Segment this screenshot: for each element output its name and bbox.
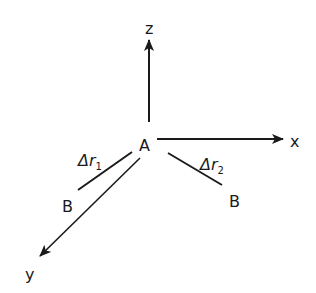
y-axis-arrow bbox=[40, 158, 140, 256]
x-axis-label: x bbox=[290, 132, 299, 151]
vector-1-symbol: Δr bbox=[76, 151, 97, 170]
vector-1-end-label: B bbox=[62, 197, 73, 216]
vector-2-subscript: 2 bbox=[218, 165, 224, 176]
vector-2-symbol: Δr bbox=[198, 155, 219, 174]
origin-label: A bbox=[139, 136, 150, 155]
vector-2-label: Δr2 bbox=[198, 155, 224, 176]
z-axis-label: z bbox=[145, 19, 153, 38]
y-axis-label: y bbox=[25, 265, 34, 284]
vector-1-subscript: 1 bbox=[96, 161, 102, 172]
vector-1-label: Δr1 bbox=[76, 151, 102, 172]
vector-2-end-label: B bbox=[229, 192, 240, 211]
coordinate-diagram: z x y A Δr1 Δr2 B B bbox=[0, 0, 316, 293]
